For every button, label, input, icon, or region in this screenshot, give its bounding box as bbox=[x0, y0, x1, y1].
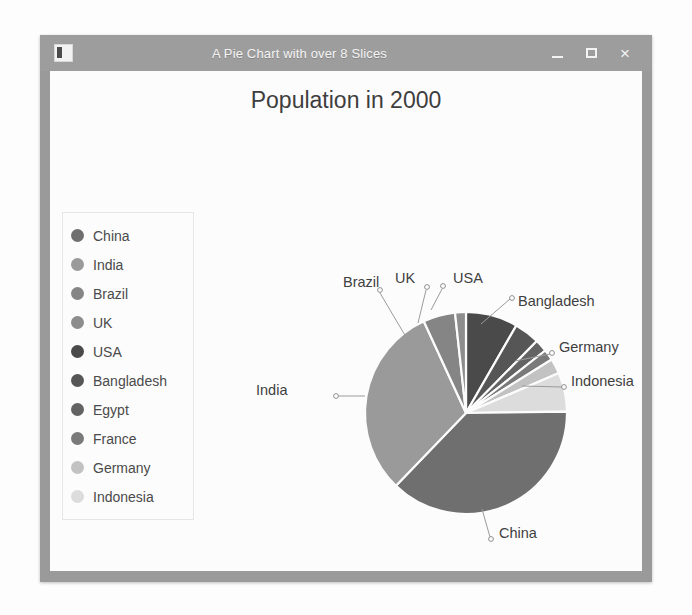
pie-slice-brazil[interactable] bbox=[424, 313, 466, 413]
leader-lines bbox=[338, 289, 562, 537]
close-button[interactable]: × bbox=[608, 35, 642, 71]
legend-item-china[interactable]: China bbox=[71, 221, 187, 250]
pie-slice-bangladesh[interactable] bbox=[466, 325, 537, 413]
legend-item-label: India bbox=[93, 257, 123, 273]
legend-item-label: USA bbox=[93, 344, 122, 360]
legend-swatch-icon bbox=[71, 461, 84, 474]
legend-item-indonesia[interactable]: Indonesia bbox=[71, 482, 187, 511]
legend-item-egypt[interactable]: Egypt bbox=[71, 395, 187, 424]
pie-slice-indonesia[interactable] bbox=[466, 373, 567, 413]
legend-swatch-icon bbox=[71, 403, 84, 416]
chart-title: Population in 2000 bbox=[50, 87, 642, 114]
pie-slice-india[interactable] bbox=[365, 321, 466, 486]
legend-item-india[interactable]: India bbox=[71, 250, 187, 279]
leader-dots bbox=[334, 284, 567, 542]
legend-swatch-icon bbox=[71, 345, 84, 358]
callout-usa: USA bbox=[453, 270, 483, 286]
legend-item-label: Germany bbox=[93, 460, 151, 476]
legend-item-label: Egypt bbox=[93, 402, 129, 418]
maximize-button[interactable] bbox=[574, 35, 608, 71]
legend-item-uk[interactable]: UK bbox=[71, 308, 187, 337]
chart-legend: ChinaIndiaBrazilUKUSABangladeshEgyptFran… bbox=[62, 212, 194, 520]
callout-bangladesh: Bangladesh bbox=[518, 293, 595, 309]
callout-uk: UK bbox=[395, 270, 415, 286]
legend-item-bangladesh[interactable]: Bangladesh bbox=[71, 366, 187, 395]
pie-slice-uk[interactable] bbox=[455, 312, 466, 413]
legend-swatch-icon bbox=[71, 229, 84, 242]
callout-brazil: Brazil bbox=[343, 274, 379, 290]
legend-item-brazil[interactable]: Brazil bbox=[71, 279, 187, 308]
legend-item-usa[interactable]: USA bbox=[71, 337, 187, 366]
legend-swatch-icon bbox=[71, 432, 84, 445]
callout-germany: Germany bbox=[559, 339, 619, 355]
legend-swatch-icon bbox=[71, 316, 84, 329]
legend-swatch-icon bbox=[71, 258, 84, 271]
minimize-icon bbox=[552, 56, 563, 58]
minimize-button[interactable] bbox=[540, 35, 574, 71]
legend-item-label: Bangladesh bbox=[93, 373, 167, 389]
chart-app-icon bbox=[54, 44, 73, 62]
window-title: A Pie Chart with over 8 Slices bbox=[59, 46, 540, 61]
pie-slice-china[interactable] bbox=[396, 412, 567, 514]
pie-slice-germany[interactable] bbox=[466, 360, 559, 413]
legend-item-germany[interactable]: Germany bbox=[71, 453, 187, 482]
legend-item-label: Indonesia bbox=[93, 489, 154, 505]
maximize-icon bbox=[586, 48, 597, 58]
legend-item-label: Brazil bbox=[93, 286, 128, 302]
callout-india: India bbox=[256, 382, 287, 398]
legend-item-label: UK bbox=[93, 315, 112, 331]
pie-slice-france[interactable] bbox=[466, 350, 552, 413]
legend-item-label: France bbox=[93, 431, 137, 447]
legend-swatch-icon bbox=[71, 287, 84, 300]
callout-indonesia: Indonesia bbox=[571, 373, 634, 389]
close-icon: × bbox=[620, 45, 630, 62]
window-title-bar[interactable]: A Pie Chart with over 8 Slices × bbox=[40, 35, 652, 71]
legend-swatch-icon bbox=[71, 374, 84, 387]
application-window: A Pie Chart with over 8 Slices × Populat… bbox=[40, 35, 652, 582]
legend-swatch-icon bbox=[71, 490, 84, 503]
chart-client-area: Population in 2000 ChinaIndiaBrazilUKUSA… bbox=[50, 71, 642, 571]
pie-slice-egypt[interactable] bbox=[466, 341, 545, 413]
legend-item-france[interactable]: France bbox=[71, 424, 187, 453]
legend-item-label: China bbox=[93, 228, 130, 244]
pie-slices bbox=[365, 312, 567, 514]
pie-slice-usa[interactable] bbox=[466, 312, 516, 413]
desktop-background: A Pie Chart with over 8 Slices × Populat… bbox=[0, 0, 692, 615]
callout-china: China bbox=[499, 525, 537, 541]
